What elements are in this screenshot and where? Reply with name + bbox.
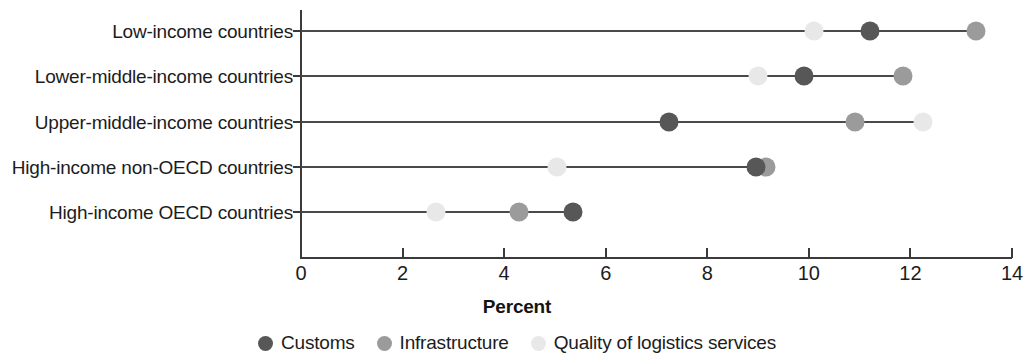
data-point [914, 113, 933, 132]
category-label: Upper-middle-income countries [0, 113, 293, 132]
x-tick-label: 2 [397, 262, 408, 284]
category-label: Lower-middle-income countries [0, 67, 293, 86]
category-label: High-income non-OECD countries [0, 158, 293, 177]
row-connector-line [301, 121, 923, 123]
legend-label: Customs [281, 333, 355, 353]
x-tick [605, 248, 607, 258]
data-point [804, 22, 823, 41]
legend-swatch-circle-icon [377, 336, 392, 351]
x-axis-title-text: Percent [483, 296, 551, 318]
chart-legend: CustomsInfrastructureQuality of logistic… [0, 333, 1034, 353]
x-tick [1011, 248, 1013, 258]
data-point [893, 67, 912, 86]
x-tick-label: 12 [899, 262, 921, 284]
category-label: High-income OECD countries [0, 203, 293, 222]
x-tick-label: 10 [798, 262, 820, 284]
dot-plot-figure: 02468101214 Low-income countriesLower-mi… [0, 0, 1034, 364]
x-tick [909, 248, 911, 258]
category-label: Low-income countries [0, 22, 293, 41]
row-connector-line [301, 166, 766, 168]
data-point [845, 113, 864, 132]
data-point [967, 22, 986, 41]
x-tick [503, 248, 505, 258]
data-point [746, 158, 765, 177]
x-tick [300, 248, 302, 258]
x-tick-label: 14 [1001, 262, 1023, 284]
legend-item[interactable]: Customs [258, 333, 355, 353]
x-tick-label: 0 [295, 262, 306, 284]
x-axis-title: Percent [0, 296, 1034, 318]
data-point [563, 203, 582, 222]
legend-swatch-circle-icon [258, 336, 273, 351]
x-axis-line [300, 257, 1012, 259]
legend-item[interactable]: Quality of logistics services [531, 333, 776, 353]
plot-area: 02468101214 Low-income countriesLower-mi… [0, 0, 1034, 290]
x-tick [706, 248, 708, 258]
x-tick-label: 4 [499, 262, 510, 284]
data-point [749, 67, 768, 86]
data-point [860, 22, 879, 41]
x-tick [402, 248, 404, 258]
data-point [548, 158, 567, 177]
x-tick-label: 8 [702, 262, 713, 284]
legend-swatch-circle-icon [531, 336, 546, 351]
legend-label: Infrastructure [400, 333, 509, 353]
data-point [510, 203, 529, 222]
data-point [660, 113, 679, 132]
data-point [426, 203, 445, 222]
legend-label: Quality of logistics services [554, 333, 776, 353]
y-axis-line [300, 10, 302, 259]
x-tick-label: 6 [600, 262, 611, 284]
data-point [794, 67, 813, 86]
legend-item[interactable]: Infrastructure [377, 333, 509, 353]
x-tick [808, 248, 810, 258]
